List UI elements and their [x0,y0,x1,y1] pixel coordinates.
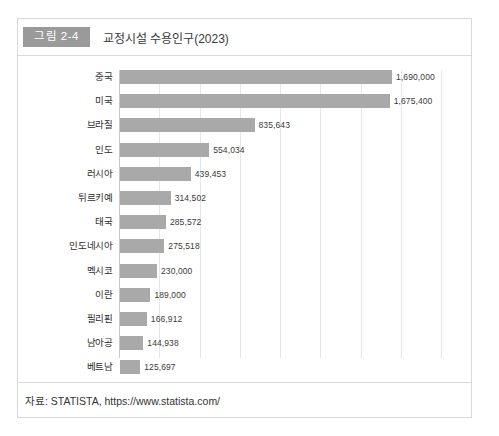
bar-value-label: 166,912 [151,312,182,326]
figure-title: 교정시설 수용인구(2023) [103,29,229,46]
bar-value-label: 230,000 [161,264,192,278]
bar [120,118,255,132]
bar [120,94,390,108]
table-row: 튀르키예314,502 [18,191,471,205]
bar-category-label: 필리핀 [18,312,113,326]
figure-header: 그림 2-4 교정시설 수용인구(2023) [18,19,471,56]
table-row: 필리핀166,912 [18,312,471,326]
bar-category-label: 남아공 [18,336,113,350]
bar [120,167,191,181]
bar [120,288,150,302]
bar-value-label: 285,572 [170,215,201,229]
bar [120,360,140,374]
table-row: 남아공144,938 [18,336,471,350]
table-row: 태국285,572 [18,215,471,229]
bar [120,191,171,205]
bar [120,143,209,157]
table-row: 러시아439,453 [18,167,471,181]
table-row: 멕시코230,000 [18,264,471,278]
bar-category-label: 인도 [18,143,113,157]
bar-value-label: 835,643 [259,118,290,132]
bar-value-label: 1,675,400 [394,94,433,108]
bar-category-label: 튀르키예 [18,191,113,205]
bar-category-label: 중국 [18,70,113,84]
table-row: 베트남125,697 [18,360,471,374]
table-row: 이란189,000 [18,288,471,302]
bar [120,336,143,350]
bar [120,264,157,278]
bar-category-label: 베트남 [18,360,113,374]
bar [120,70,392,84]
bar-category-label: 러시아 [18,167,113,181]
bar-category-label: 이란 [18,288,113,302]
bar-category-label: 브라질 [18,118,113,132]
bar [120,239,164,253]
bar-value-label: 439,453 [195,167,226,181]
bar-category-label: 인도네시아 [18,239,113,253]
bar-value-label: 1,690,000 [396,70,435,84]
chart-bar-rows: 중국1,690,000미국1,675,400브라질835,643인도554,03… [18,70,471,358]
bar-category-label: 미국 [18,94,113,108]
bar-value-label: 189,000 [154,288,185,302]
figure-footer: 자료: STATISTA, https://www.statista.com/ [18,382,471,417]
table-row: 인도554,034 [18,143,471,157]
bar-value-label: 125,697 [144,360,175,374]
table-row: 브라질835,643 [18,118,471,132]
figure-container: 그림 2-4 교정시설 수용인구(2023) 중국1,690,000미국1,67… [17,18,472,418]
bar-value-label: 144,938 [147,336,178,350]
chart-area: 중국1,690,000미국1,675,400브라질835,643인도554,03… [18,56,471,382]
bar-value-label: 554,034 [213,143,244,157]
bar [120,215,166,229]
bar [120,312,147,326]
bar-chart-plot: 중국1,690,000미국1,675,400브라질835,643인도554,03… [18,56,471,382]
table-row: 중국1,690,000 [18,70,471,84]
figure-number-badge: 그림 2-4 [23,27,90,48]
bar-value-label: 275,518 [168,239,199,253]
bar-category-label: 태국 [18,215,113,229]
bar-value-label: 314,502 [175,191,206,205]
figure-source-text: 자료: STATISTA, https://www.statista.com/ [25,393,220,408]
table-row: 인도네시아275,518 [18,239,471,253]
bar-category-label: 멕시코 [18,264,113,278]
table-row: 미국1,675,400 [18,94,471,108]
